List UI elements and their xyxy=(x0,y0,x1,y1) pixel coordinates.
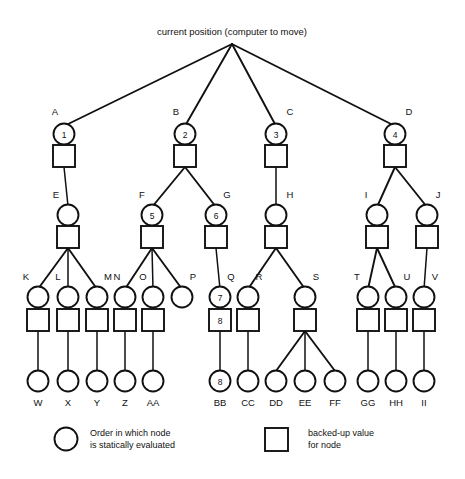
node-B[interactable]: B 2 xyxy=(173,106,196,167)
node-D-square[interactable] xyxy=(384,145,406,167)
node-Q-label: Q xyxy=(227,271,234,282)
leaf-DD-label: DD xyxy=(269,397,283,408)
node-C-square[interactable] xyxy=(265,145,287,167)
node-P-label: P xyxy=(190,271,196,282)
node-R-circle[interactable] xyxy=(238,287,259,308)
node-H-circle[interactable] xyxy=(266,205,287,226)
edges-level2-to-level3 xyxy=(38,248,427,289)
node-O[interactable]: O xyxy=(139,271,164,331)
node-U-square[interactable] xyxy=(385,309,407,331)
leaf-Y-circle[interactable] xyxy=(87,371,108,392)
leaf-GG[interactable]: GG xyxy=(358,371,379,409)
leaf-GG-circle[interactable] xyxy=(358,371,379,392)
node-N-square[interactable] xyxy=(114,309,136,331)
node-J-label: J xyxy=(436,189,441,200)
leaf-EE[interactable]: EE xyxy=(295,371,316,409)
leaf-BB-value: 8 xyxy=(218,377,223,387)
node-D[interactable]: D 4 xyxy=(384,106,413,167)
node-A-circle-value: 1 xyxy=(62,130,67,140)
leaf-AA[interactable]: AA xyxy=(143,371,164,409)
node-E[interactable]: E xyxy=(53,189,79,248)
node-O-label: O xyxy=(139,271,146,282)
legend-square-line1: backed-up value xyxy=(308,428,374,438)
leaf-BB[interactable]: 8 BB xyxy=(210,371,231,409)
node-M-square[interactable] xyxy=(86,309,108,331)
leaf-HH-circle[interactable] xyxy=(386,371,407,392)
leaf-DD-circle[interactable] xyxy=(266,371,287,392)
node-F-square[interactable] xyxy=(141,226,163,248)
node-V-square[interactable] xyxy=(413,309,435,331)
node-L-label: L xyxy=(55,271,60,282)
leaf-X[interactable]: X xyxy=(58,371,79,409)
node-U[interactable]: U xyxy=(385,271,411,331)
node-Q-square-value: 8 xyxy=(218,316,223,326)
node-T-circle[interactable] xyxy=(358,287,379,308)
node-S-square[interactable] xyxy=(294,309,316,331)
node-U-circle[interactable] xyxy=(386,287,407,308)
node-J-square[interactable] xyxy=(416,226,438,248)
node-I-circle[interactable] xyxy=(367,205,388,226)
node-H[interactable]: H xyxy=(265,189,294,248)
node-R-square[interactable] xyxy=(237,309,259,331)
node-Q-circle-value: 7 xyxy=(218,293,223,303)
node-S-label: S xyxy=(313,271,319,282)
node-L-circle[interactable] xyxy=(58,287,79,308)
node-V[interactable]: V xyxy=(413,271,439,331)
leaf-X-label: X xyxy=(65,397,72,408)
leaf-AA-circle[interactable] xyxy=(143,371,164,392)
leaf-CC-circle[interactable] xyxy=(238,371,259,392)
node-A-square[interactable] xyxy=(53,145,75,167)
leaf-HH[interactable]: HH xyxy=(386,371,407,409)
node-C-circle-value: 3 xyxy=(274,130,279,140)
leaf-DD[interactable]: DD xyxy=(266,371,287,409)
leaf-Y-label: Y xyxy=(94,397,101,408)
node-V-circle[interactable] xyxy=(414,287,435,308)
node-M-circle[interactable] xyxy=(87,287,108,308)
node-S-circle[interactable] xyxy=(295,287,316,308)
node-T-square[interactable] xyxy=(357,309,379,331)
node-O-circle[interactable] xyxy=(143,287,164,308)
node-B-label: B xyxy=(173,106,179,117)
leaf-FF[interactable]: FF xyxy=(325,371,346,409)
node-T-label: T xyxy=(354,271,360,282)
leaf-II-circle[interactable] xyxy=(414,371,435,392)
leaf-W-circle[interactable] xyxy=(28,371,49,392)
node-P[interactable]: P xyxy=(172,271,197,308)
leaf-CC-label: CC xyxy=(241,397,255,408)
node-N-circle[interactable] xyxy=(115,287,136,308)
node-P-circle[interactable] xyxy=(172,287,193,308)
node-O-square[interactable] xyxy=(142,309,164,331)
node-E-circle[interactable] xyxy=(58,205,79,226)
leaf-II-label: II xyxy=(421,397,426,408)
node-E-square[interactable] xyxy=(57,226,79,248)
node-K-label: K xyxy=(23,271,30,282)
node-G-square[interactable] xyxy=(205,226,227,248)
node-N[interactable]: N xyxy=(114,271,136,331)
node-I-square[interactable] xyxy=(366,226,388,248)
node-H-square[interactable] xyxy=(265,226,287,248)
node-A[interactable]: A 1 xyxy=(52,106,75,167)
leaf-CC[interactable]: CC xyxy=(238,371,259,409)
leaf-II[interactable]: II xyxy=(414,371,435,409)
node-I-label: I xyxy=(365,189,368,200)
node-L[interactable]: L xyxy=(55,271,79,331)
node-K-circle[interactable] xyxy=(28,287,49,308)
node-T[interactable]: T xyxy=(354,271,379,331)
node-Q[interactable]: Q 7 8 xyxy=(209,271,235,331)
node-I[interactable]: I xyxy=(365,189,388,248)
leaf-W[interactable]: W xyxy=(28,371,49,409)
node-L-square[interactable] xyxy=(57,309,79,331)
leaf-FF-circle[interactable] xyxy=(325,371,346,392)
leaf-Z[interactable]: Z xyxy=(115,371,136,409)
node-R[interactable]: R xyxy=(237,271,263,331)
leaf-X-circle[interactable] xyxy=(58,371,79,392)
leaf-EE-circle[interactable] xyxy=(295,371,316,392)
leaf-BB-label: BB xyxy=(214,397,227,408)
leaf-Z-circle[interactable] xyxy=(115,371,136,392)
node-J-circle[interactable] xyxy=(417,205,438,226)
leaf-Y[interactable]: Y xyxy=(87,371,108,409)
node-K-square[interactable] xyxy=(27,309,49,331)
node-B-square[interactable] xyxy=(174,145,196,167)
node-E-label: E xyxy=(53,189,59,200)
leaf-Z-label: Z xyxy=(122,397,128,408)
